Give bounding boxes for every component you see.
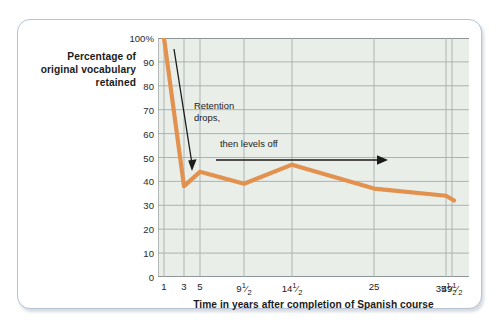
y-tick-label: 70 bbox=[143, 104, 154, 115]
y-tick-label: 30 bbox=[143, 200, 154, 211]
plot-svg bbox=[158, 38, 469, 277]
y-tick-label: 50 bbox=[143, 152, 154, 163]
x-tick-label: 91⁄2 bbox=[236, 281, 251, 297]
y-tick-label: 0 bbox=[149, 272, 154, 283]
figure-root: Percentage of original vocabulary retain… bbox=[0, 0, 502, 333]
x-tick-label: 3 bbox=[181, 281, 186, 292]
y-tick-label: 60 bbox=[143, 128, 154, 139]
annotation-then-levels-off: then levels off bbox=[220, 138, 278, 150]
y-tick-label: 80 bbox=[143, 80, 154, 91]
y-tick-label: 20 bbox=[143, 224, 154, 235]
x-tick-label: 25 bbox=[369, 281, 380, 292]
x-tick-label: 491⁄2 bbox=[442, 281, 463, 297]
right-arrow-icon bbox=[216, 155, 388, 165]
x-tick-label: 5 bbox=[197, 281, 202, 292]
y-tick-label: 100% bbox=[129, 33, 154, 44]
x-axis-ticks: 13591⁄2141⁄225351⁄2491⁄2 bbox=[158, 281, 469, 297]
x-axis-title: Time in years after completion of Spanis… bbox=[158, 299, 469, 310]
x-tick-label: 1 bbox=[161, 281, 166, 292]
annotation-retention-drops: Retention drops, bbox=[194, 100, 234, 123]
horizontal-gridlines bbox=[158, 38, 469, 277]
x-tick-label: 141⁄2 bbox=[282, 281, 303, 297]
plot-area: Retention drops, then levels off bbox=[158, 38, 469, 277]
y-tick-label: 40 bbox=[143, 176, 154, 187]
y-tick-label: 10 bbox=[143, 248, 154, 259]
y-axis-ticks: 0102030405060708090100% bbox=[118, 38, 154, 277]
y-tick-label: 90 bbox=[143, 56, 154, 67]
